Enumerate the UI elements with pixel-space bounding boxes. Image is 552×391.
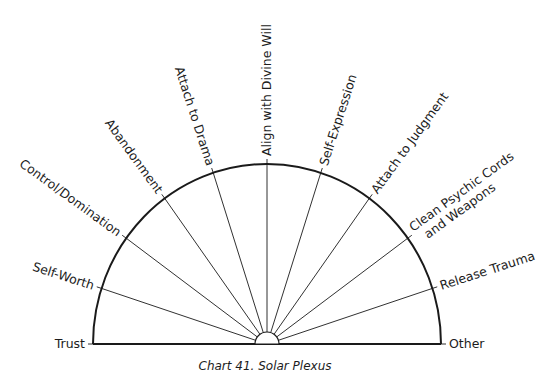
spoke-attach-to-drama <box>213 173 263 333</box>
label-attach-to-drama: Attach to Drama <box>172 65 218 168</box>
label-line: Attach to Drama <box>172 65 218 168</box>
label-line: Release Trauma <box>438 248 537 293</box>
label-line: Control/Domination <box>17 156 124 240</box>
spoke-self-worth <box>102 288 256 340</box>
label-self-expression: Self-Expression <box>316 72 360 167</box>
spokes <box>88 159 446 344</box>
chart-caption: Chart 41. Solar Plexus <box>199 359 332 373</box>
label-attach-to-judgment: Attach to Judgment <box>368 89 451 196</box>
label-align-with-divine-will: Align with Divine Will <box>259 24 274 156</box>
label-other: Other <box>449 336 485 351</box>
label-line: Align with Divine Will <box>259 24 274 156</box>
label-self-worth: Self-Worth <box>31 259 97 293</box>
label-release-trauma: Release Trauma <box>438 248 537 293</box>
center-hub <box>255 332 279 344</box>
label-line: Other <box>449 336 485 351</box>
labels: TrustSelf-WorthControl/DominationAbandon… <box>17 24 537 351</box>
label-line: Clean Psychic Cords <box>406 148 516 234</box>
spoke-attach-to-judgment <box>274 198 369 334</box>
label-line: Self-Expression <box>316 72 360 167</box>
label-control-domination: Control/Domination <box>17 156 124 240</box>
spoke-release-trauma <box>278 288 432 340</box>
label-trust: Trust <box>54 336 85 351</box>
label-line: Attach to Judgment <box>368 89 451 196</box>
spoke-self-expression <box>271 173 321 333</box>
label-abandonment: Abandonment <box>102 116 166 196</box>
label-clean-psychic-cords-and-weapons: Clean Psychic Cordsand Weapons <box>406 148 525 246</box>
label-line: Trust <box>54 336 85 351</box>
spoke-control-domination <box>126 238 257 337</box>
spoke-abandonment <box>165 198 260 334</box>
spoke-clean-psychic-cords-and-weapons <box>277 238 408 337</box>
solar-plexus-chart: TrustSelf-WorthControl/DominationAbandon… <box>0 0 552 391</box>
label-line: Abandonment <box>102 116 166 196</box>
label-line: Self-Worth <box>31 259 97 293</box>
